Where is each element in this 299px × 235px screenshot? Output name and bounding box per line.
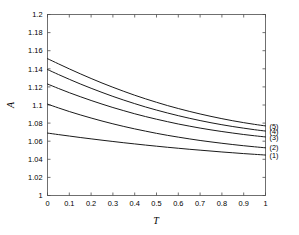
y-tick-label: 1.16 <box>28 46 42 55</box>
x-tick-label: 1 <box>263 199 267 208</box>
y-tick-label: 1.08 <box>28 119 42 128</box>
y-tick-label: 1.2 <box>32 10 42 19</box>
y-tick-label: 1.12 <box>28 83 42 92</box>
x-tick-label: 0.6 <box>173 199 183 208</box>
y-tick-label: 1.06 <box>28 137 42 146</box>
curve-labels: (1)(2)(3)(4)(5) <box>270 122 279 160</box>
x-tick-label: 0 <box>45 199 49 208</box>
y-tick-label: 1.1 <box>32 101 42 110</box>
x-tick-label: 0.5 <box>151 199 161 208</box>
x-tick-label: 0.3 <box>108 199 118 208</box>
y-tick-label: 1.04 <box>28 155 42 164</box>
x-tick-label: 0.8 <box>217 199 227 208</box>
y-tick-label: 1 <box>38 191 42 200</box>
chart-plot: 00.10.20.30.40.50.60.70.80.91 11.021.041… <box>0 0 299 235</box>
figure-canvas: 00.10.20.30.40.50.60.70.80.91 11.021.041… <box>0 0 299 235</box>
x-tick-label: 0.7 <box>195 199 205 208</box>
y-tick-label: 1.18 <box>28 28 42 37</box>
x-tick-label: 0.2 <box>86 199 96 208</box>
x-tick-label: 0.4 <box>130 199 140 208</box>
x-tick-label: 0.1 <box>64 199 74 208</box>
curve-label-2: (2) <box>270 143 279 152</box>
y-axis-title: A <box>5 101 16 109</box>
y-tick-label: 1.14 <box>28 65 42 74</box>
curve-label-5: (5) <box>270 122 279 131</box>
y-tick-label: 1.02 <box>28 173 42 182</box>
x-tick-label: 0.9 <box>239 199 249 208</box>
